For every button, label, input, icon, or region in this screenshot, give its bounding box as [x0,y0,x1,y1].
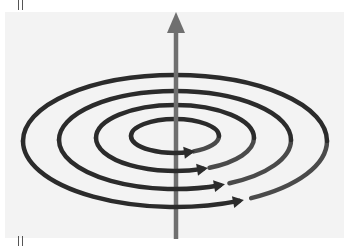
field-line-ring-1-front-right [194,136,219,151]
field-line-ring-4-front [23,141,239,207]
field-line-ring-3-front-right [229,140,291,183]
field-direction-arrow-icon [196,164,208,176]
field-direction-arrow-icon [232,196,244,208]
current-direction-arrow-icon [167,12,185,33]
field-direction-arrow-icon [213,180,225,192]
field-line-ring-1-front [131,136,190,153]
magnetic-field-diagram [0,0,344,246]
